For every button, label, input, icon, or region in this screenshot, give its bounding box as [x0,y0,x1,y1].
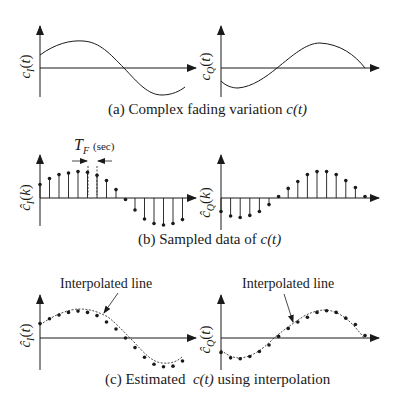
panel-a-right-plot [221,26,379,97]
sample-dot [152,222,156,226]
sample-dot [48,317,52,321]
sample-dot [38,322,42,326]
sample-dot [315,170,319,174]
sample-dot [229,214,233,218]
ylabel-b-right: ĉQ(k) [197,181,216,225]
sample-dot [171,222,175,226]
sample-dot [143,217,147,221]
ylabel-c-left: ĉI(t) [17,315,36,357]
ylabel-c-right: ĉQ(t) [197,319,216,361]
sample-dot [334,173,338,177]
caption-b: (b) Sampled data of c(t) [138,231,281,248]
sample-dot [248,355,252,359]
sample-dot [248,214,252,218]
panel-a-left-plot [40,26,196,97]
sample-dot [258,350,262,354]
sample-dot [354,186,358,190]
sample-dot [286,327,290,331]
sample-dot [133,346,137,350]
sample-dot [95,314,99,318]
panel-c-right-plot [219,294,379,370]
sample-dot [38,183,42,187]
caption-c: (c) Estimated c(t) using interpolation [105,371,330,388]
sample-dot [124,198,128,202]
sample-dot [229,356,233,360]
sample-dot [296,320,300,324]
sample-dot [315,311,319,315]
sample-dot [181,218,185,222]
sample-dot [277,335,281,339]
sample-dot [325,170,329,174]
sample-dot [325,309,329,313]
sample-dot [152,362,156,366]
sample-dot [219,351,223,355]
sample-dot [171,364,175,368]
ylabel-b-left: ĉI(k) [17,176,36,220]
sample-dot [67,171,71,175]
annotation-arrow [284,294,293,322]
panel-b-right-plot [219,155,379,230]
sample-dot [296,180,300,184]
sample-dot [57,173,61,177]
estimated-samples [219,309,367,361]
interpolated-line [40,309,183,363]
sample-dot [124,336,128,340]
tf-label: TF (sec) [74,136,114,156]
sample-dot [133,208,137,212]
interpolated-line [221,310,364,358]
sample-dot [267,203,271,207]
sample-dot [238,216,242,220]
sample-dot [363,334,367,338]
sample-dot [344,316,348,320]
sample-dot [105,320,109,324]
sample-dot [306,315,310,319]
ylabel-a-right: cQ(t) [197,47,216,87]
stem-samples [219,170,367,220]
sample-dot [162,223,166,227]
caption-a: (a) Complex fading variation c(t) [108,101,307,118]
interpolated-line-label-left: Interpolated line [60,276,152,292]
sample-dot [344,179,348,183]
sample-dot [86,170,90,174]
panel-b-left-plot [38,155,196,227]
sample-dot [363,195,367,199]
sample-dot [286,187,290,191]
sample-dot [57,313,61,317]
ylabel-a-left: cI(t) [17,47,36,87]
sample-dot [277,195,281,199]
sample-dot [114,327,118,331]
cQ-curve [221,43,365,88]
sample-dot [162,365,166,369]
estimated-samples [38,309,184,368]
sample-dot [48,177,52,181]
sample-dot [354,323,358,327]
sample-dot [267,343,271,347]
sample-dot [67,311,71,315]
sample-dot [76,309,80,313]
sample-dot [334,311,338,315]
sample-dot [143,355,147,359]
sample-dot [181,359,185,363]
sample-dot [306,173,310,177]
sample-dot [258,210,262,214]
interpolated-line-label-right: Interpolated line [242,276,334,292]
sample-dot [238,357,242,361]
sample-dot [219,210,223,214]
sample-dot [105,179,109,183]
sample-dot [114,188,118,192]
annotation-arrow [104,293,118,313]
sample-dot [86,311,90,315]
sample-dot [76,170,80,174]
panel-c-left-plot [38,293,196,370]
